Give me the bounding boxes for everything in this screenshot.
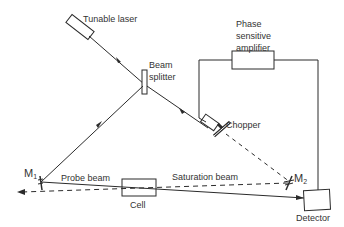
mirror-2-letter: M — [294, 172, 303, 184]
saturation-beam-label: Saturation beam — [172, 171, 238, 183]
laser-beam — [89, 36, 144, 84]
amplifier-label-line2: sensitive — [236, 30, 271, 42]
beam-splitter-icon — [142, 70, 147, 94]
mirror-1-icon — [38, 176, 43, 190]
tunable-laser-label: Tunable laser — [83, 13, 137, 25]
amplifier-label-line1: Phase — [236, 18, 262, 30]
amplifier-label-line3: amplifier — [236, 42, 270, 54]
mirror-1-subscript: 1 — [33, 173, 37, 180]
saturation-beam — [22, 183, 288, 192]
detector-label: Detector — [296, 212, 330, 224]
beam-splitter-label-line1: Beam — [149, 59, 173, 71]
cell-label: Cell — [130, 199, 146, 211]
mirror-1-label: M1 — [24, 167, 37, 183]
amplifier-chopper-wire — [199, 60, 232, 122]
mirror-1-letter: M — [24, 167, 33, 179]
beam-splitter-label-line2: splitter — [149, 71, 176, 83]
amplifier-detector-wire — [274, 60, 318, 190]
exit-arrow-icon — [17, 189, 25, 195]
detector-icon — [303, 189, 330, 210]
chopper-label: Chopper — [226, 119, 261, 131]
mirror-2-label: M2 — [294, 172, 307, 188]
probe-beam-path — [41, 86, 143, 182]
saturation-beam-path — [144, 84, 208, 128]
probe-beam-label: Probe beam — [61, 172, 110, 184]
mirror-2-subscript: 2 — [303, 178, 307, 185]
optical-setup-diagram — [0, 0, 344, 227]
